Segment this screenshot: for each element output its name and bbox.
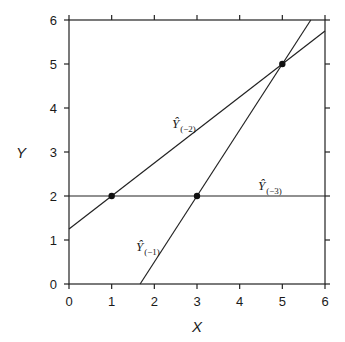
x-tick-label: 0 (65, 294, 72, 309)
series-label-2: Ŷ(−2) (172, 116, 196, 134)
x-tick-label: 2 (151, 294, 158, 309)
data-point (108, 193, 114, 199)
y-tick-label: 2 (50, 189, 57, 204)
axis-ticks: 01234560123456 (50, 13, 330, 309)
series-label-1: Ŷ(−1) (136, 239, 160, 257)
x-tick-label: 4 (236, 294, 243, 309)
plot-border (69, 20, 325, 284)
x-axis-title: X (191, 318, 203, 335)
fit-line-1 (140, 20, 311, 284)
x-tick-label: 5 (279, 294, 286, 309)
series-label-3: Ŷ(−3) (258, 178, 282, 196)
plot-frame (69, 20, 325, 284)
y-tick-label: 6 (50, 13, 57, 28)
y-tick-label: 3 (50, 145, 57, 160)
fit-line-2 (69, 31, 325, 229)
y-tick-label: 1 (50, 233, 57, 248)
data-point (194, 193, 200, 199)
y-tick-label: 5 (50, 57, 57, 72)
fit-lines (69, 20, 325, 284)
x-tick-label: 3 (193, 294, 200, 309)
data-point (279, 61, 285, 67)
chart: 01234560123456 Ŷ(−1)Ŷ(−2)Ŷ(−3) X Y (0, 0, 345, 342)
y-tick-label: 4 (50, 101, 57, 116)
series-labels: Ŷ(−1)Ŷ(−2)Ŷ(−3) (136, 116, 282, 257)
y-tick-label: 0 (50, 277, 57, 292)
x-tick-label: 1 (108, 294, 115, 309)
y-axis-title: Y (16, 144, 27, 161)
x-tick-label: 6 (321, 294, 328, 309)
